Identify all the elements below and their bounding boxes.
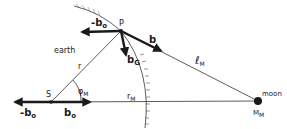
point-P [119, 29, 123, 33]
point-S [49, 100, 53, 104]
label-phiM: φM [78, 87, 88, 97]
neg-b0-top-arrow [82, 31, 121, 32]
diagram-canvas: P S earth moon MM -bo b bG -bo bo r rM ℓ… [0, 0, 287, 129]
label-bG: bG [127, 54, 140, 67]
label-lM: ℓM [194, 54, 205, 67]
label-neg-b0-bottom: -bo [20, 107, 36, 120]
moon-sphere-arc [121, 31, 150, 128]
label-moon: moon [262, 90, 282, 98]
label-MM: MM [253, 109, 264, 118]
label-earth: earth [54, 46, 75, 55]
label-b0: bo [64, 107, 76, 120]
label-r: r [78, 62, 82, 71]
label-P: P [119, 19, 124, 28]
moon-body [254, 97, 262, 105]
label-S: S [46, 90, 51, 99]
label-rM: rM [127, 92, 135, 102]
label-b: b [149, 34, 156, 45]
